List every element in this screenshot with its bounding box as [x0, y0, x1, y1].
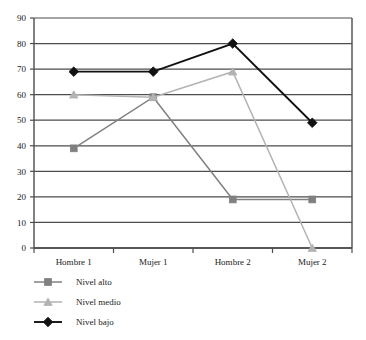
square-marker: [229, 196, 236, 203]
diamond-marker: [43, 317, 53, 327]
y-tick-label: 60: [17, 90, 27, 100]
chart-legend: Nivel altoNivel medioNivel bajo: [34, 277, 121, 327]
x-axis-labels: Hombre 1Mujer 1Hombre 2Mujer 2: [56, 257, 327, 267]
series-line: [74, 72, 313, 248]
x-tick-label: Hombre 2: [215, 257, 251, 267]
y-tick-label: 70: [17, 64, 27, 74]
square-marker: [45, 279, 52, 286]
y-tick-label: 40: [17, 141, 27, 151]
diamond-marker: [69, 67, 79, 77]
y-gridlines: [34, 18, 352, 248]
y-axis-ticks: 9080706050403020100: [17, 13, 34, 253]
y-tick-label: 10: [17, 218, 27, 228]
y-tick-label: 90: [17, 13, 27, 23]
legend-label: Nivel medio: [76, 297, 121, 307]
series-line: [74, 97, 313, 199]
y-tick-label: 0: [22, 243, 27, 253]
y-tick-label: 80: [17, 39, 27, 49]
legend-label: Nivel alto: [76, 277, 112, 287]
series-triangle: [70, 68, 317, 252]
diamond-marker: [148, 67, 158, 77]
x-tick-label: Mujer 1: [139, 257, 168, 267]
legend-item[interactable]: Nivel bajo: [34, 317, 114, 327]
legend-item[interactable]: Nivel alto: [34, 277, 112, 287]
series-diamond: [69, 39, 317, 128]
series-layer: [69, 39, 317, 252]
chart-canvas: 9080706050403020100 Hombre 1Mujer 1Hombr…: [0, 0, 366, 340]
y-tick-label: 50: [17, 115, 27, 125]
square-marker: [309, 196, 316, 203]
legend-item[interactable]: Nivel medio: [34, 297, 121, 307]
x-axis-ticks: [34, 248, 352, 253]
series-line: [74, 44, 313, 123]
y-tick-label: 30: [17, 167, 27, 177]
legend-label: Nivel bajo: [76, 317, 114, 327]
y-tick-label: 20: [17, 192, 27, 202]
line-chart: 9080706050403020100 Hombre 1Mujer 1Hombr…: [0, 0, 366, 340]
x-tick-label: Mujer 2: [298, 257, 327, 267]
x-tick-label: Hombre 1: [56, 257, 92, 267]
square-marker: [70, 145, 77, 152]
series-square: [70, 94, 315, 203]
